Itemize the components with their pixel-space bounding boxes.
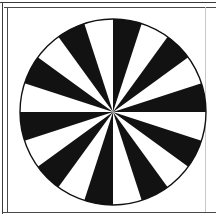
- page-root: [0, 0, 216, 219]
- radial-sunburst-svg: [0, 0, 216, 219]
- figure-container: [0, 0, 216, 219]
- sunburst-wedge-layer: [20, 19, 206, 205]
